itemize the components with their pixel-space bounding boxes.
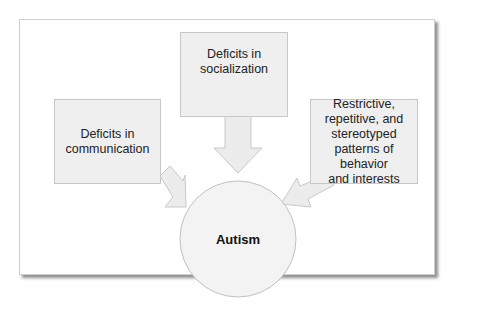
node-behavior: Restrictive, repetitive, and stereotyped… xyxy=(310,99,418,184)
node-socialization-line-1: Deficits in xyxy=(200,47,268,62)
node-behavior-line-3: stereotyped xyxy=(311,127,417,142)
node-communication-line-1: Deficits in xyxy=(65,127,149,142)
node-socialization-line-2: socialization xyxy=(200,62,268,77)
node-communication: Deficits in communication xyxy=(54,99,161,184)
arrow-socialization-to-autism xyxy=(214,116,262,173)
node-socialization: Deficits in socialization xyxy=(180,32,288,117)
autism-label: Autism xyxy=(198,232,278,247)
node-behavior-line-2: repetitive, and xyxy=(311,112,417,127)
node-behavior-label: Restrictive, repetitive, and stereotyped… xyxy=(311,97,417,187)
node-communication-label: Deficits in communication xyxy=(65,127,149,157)
node-behavior-line-5: and interests xyxy=(311,172,417,187)
node-behavior-line-1: Restrictive, xyxy=(311,97,417,112)
node-behavior-line-4: patterns of behavior xyxy=(311,142,417,172)
node-communication-line-2: communication xyxy=(65,142,149,157)
node-socialization-label: Deficits in socialization xyxy=(200,47,268,103)
